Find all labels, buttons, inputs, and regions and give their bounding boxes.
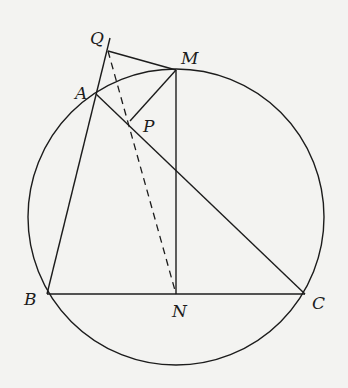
- label-C: C: [312, 293, 325, 313]
- label-B: B: [23, 289, 37, 309]
- geometry-diagram: Q M A P B N C: [0, 0, 348, 388]
- label-Q: Q: [90, 28, 104, 48]
- segment-MP: [130, 70, 176, 121]
- label-P: P: [142, 116, 155, 136]
- label-N: N: [171, 301, 188, 321]
- segment-AC: [96, 94, 305, 294]
- label-M: M: [180, 48, 199, 68]
- segment-QM: [108, 51, 176, 70]
- segment-BQ: [47, 38, 110, 294]
- label-A: A: [73, 83, 87, 103]
- diagram-svg: Q M A P B N C: [0, 0, 348, 388]
- segment-QN-dashed: [108, 51, 176, 294]
